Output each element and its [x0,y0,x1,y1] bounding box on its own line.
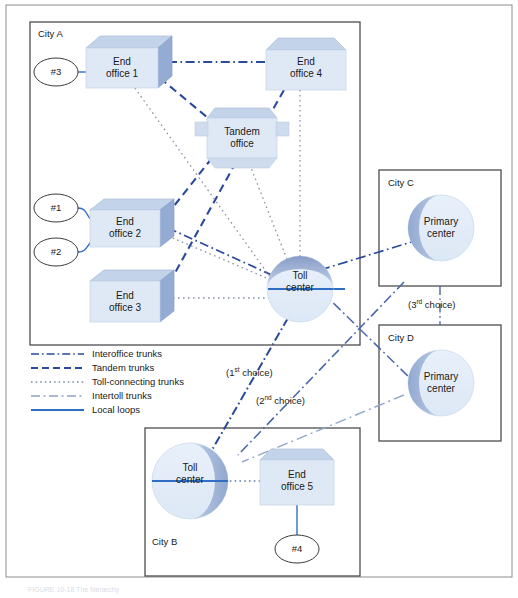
page-frame [6,5,512,577]
choice-1-annotation: (1st choice) [226,366,273,378]
figure-caption: FIGURE 10-18 The hierarchy [28,586,119,593]
trunk-tandem-eo1 [160,78,208,118]
trunk-intertoll-tollA-primaryC [320,240,418,270]
node-end-office-4 [266,38,346,90]
legend-label-intertoll-trunks: Intertoll trunks [92,390,152,401]
node-primary-center-c [408,195,474,261]
choice-2-annotation: (2nd choice) [256,394,305,406]
legend-label-tandem-trunks: Tandem trunks [92,362,154,373]
marker-3-label: #3 [38,66,74,77]
city-c-label: City C [388,177,414,188]
trunk-first-choice-tollA-tollB [212,318,288,450]
city-a-label: City A [38,28,63,39]
city-d-label: City D [388,332,414,343]
node-end-office-5 [260,449,334,505]
node-toll-center-b [152,443,228,519]
marker-2-label: #2 [38,246,74,257]
choice-1-suffix: choice) [240,367,273,378]
choice-2-suffix: choice) [272,395,305,406]
node-end-office-3 [90,270,174,322]
trunk-interoffice-eo2-toll [168,228,274,276]
legend-label-toll-connecting-trunks: Toll-connecting trunks [92,376,184,387]
trunk-tollconn-tandem [248,160,288,262]
city-b-label: City B [152,536,177,547]
legend-label-local-loops: Local loops [92,404,140,415]
choice-3-annotation: (3rd choice) [408,298,456,310]
marker-1-label: #1 [38,202,74,213]
trunk-tandem-eo3 [170,162,236,282]
node-end-office-1 [86,36,172,88]
node-primary-center-d [408,350,474,416]
choice-3-suffix: choice) [422,299,455,310]
trunk-tollconn-eo2 [168,236,276,282]
legend-label-interoffice-trunks: Interoffice trunks [92,348,162,359]
node-tandem-office [195,108,289,168]
marker-4-label: #4 [279,543,315,554]
node-end-office-2 [90,199,174,247]
figure-canvas: City A City B City C City D End office 1… [0,0,518,598]
choice-2-ordinal: nd [264,394,271,401]
